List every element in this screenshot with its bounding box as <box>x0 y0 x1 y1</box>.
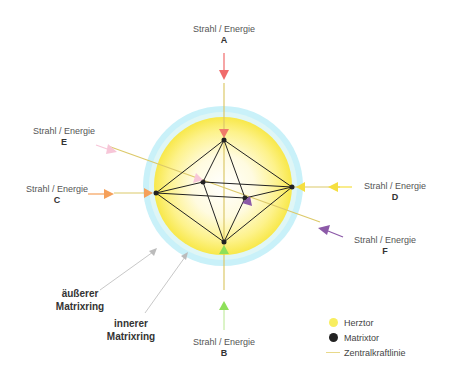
legend: Herztor Matrixtor Zentralkraftlinie <box>322 315 406 360</box>
legend-item-zentralkraftlinie: Zentralkraftlinie <box>322 345 406 360</box>
beam-a-label: Strahl / EnergieA <box>184 24 264 46</box>
beam-c-label: Strahl / EnergieC <box>17 184 97 206</box>
legend-item-herztor: Herztor <box>322 315 406 330</box>
inner-ring-label: innererMatrixring <box>95 317 167 343</box>
beam-d-label: Strahl / EnergieD <box>355 181 435 203</box>
central-line-icon <box>326 352 340 353</box>
legend-item-matrixtor: Matrixtor <box>322 330 406 345</box>
beam-e-label: Strahl / EnergieE <box>24 126 104 148</box>
outer-ring-label: äußererMatrixring <box>44 287 116 313</box>
herztor-icon <box>329 318 338 327</box>
beam-f-label: Strahl / EnergieF <box>345 235 425 257</box>
matrixtor-icon <box>329 333 338 342</box>
beam-b-label: Strahl / EnergieB <box>184 337 264 359</box>
